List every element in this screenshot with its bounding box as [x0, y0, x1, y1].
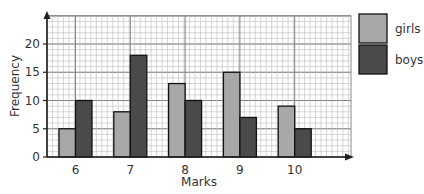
bar-girls-6: [59, 129, 76, 157]
x-axis-label: Marks: [181, 175, 217, 189]
y-tick-label: 15: [25, 65, 40, 79]
bar-girls-7: [114, 112, 131, 157]
y-tick-label: 5: [32, 122, 40, 136]
legend-swatch-boys: [359, 45, 387, 74]
bar-boys-6: [76, 101, 93, 158]
bar-girls-10: [278, 106, 295, 157]
x-tick-label: 7: [126, 163, 134, 177]
bar-boys-7: [130, 55, 147, 157]
x-tick-label: 6: [72, 163, 80, 177]
y-tick-label: 0: [32, 150, 40, 164]
bar-boys-8: [185, 101, 202, 158]
y-axis-arrow-icon: [44, 11, 51, 19]
bar-boys-9: [240, 117, 257, 157]
legend-label-girls: girls: [395, 22, 420, 36]
legend-swatch-girls: [359, 14, 387, 43]
x-tick-label: 9: [236, 163, 244, 177]
legend-label-boys: boys: [395, 53, 423, 67]
bar-boys-10: [295, 129, 312, 157]
y-tick-label: 20: [25, 37, 40, 51]
y-tick-label: 10: [25, 94, 40, 108]
y-axis-label: Frequency: [8, 55, 22, 117]
y-ticks: 05101520: [25, 37, 47, 164]
bar-girls-9: [223, 72, 240, 157]
bar-girls-8: [169, 84, 186, 157]
legend: girlsboys: [359, 14, 423, 74]
x-tick-label: 10: [287, 163, 302, 177]
bar-chart: 05101520 678910 Marks Frequency girlsboy…: [0, 0, 424, 194]
